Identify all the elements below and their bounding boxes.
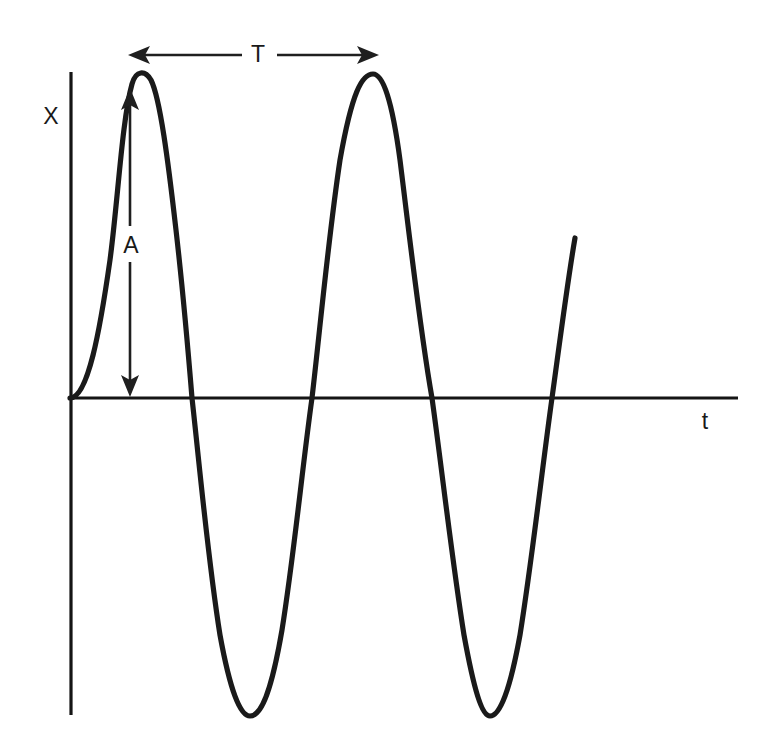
figure-canvas: T A X t xyxy=(0,0,769,756)
wave-diagram: T A X t xyxy=(0,0,769,756)
amplitude-label: A xyxy=(123,232,139,258)
x-axis-label: t xyxy=(702,408,709,434)
period-label: T xyxy=(251,41,265,67)
y-axis-label: X xyxy=(43,103,58,129)
period-dimension-annotation: T xyxy=(128,41,379,67)
sine-wave-curve xyxy=(70,73,575,716)
